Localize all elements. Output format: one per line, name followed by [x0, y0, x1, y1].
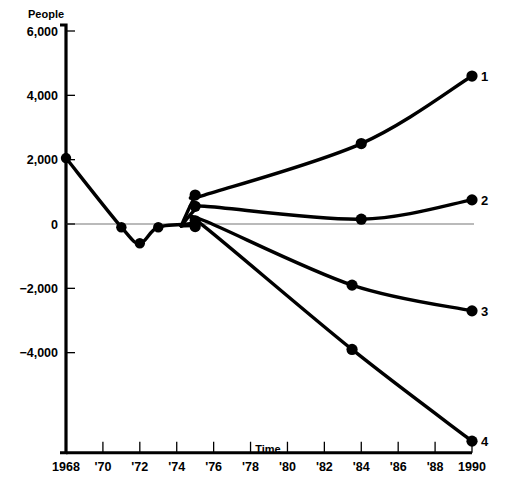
y-tick-label: −2,000: [19, 282, 58, 296]
series-end-label-4: 4: [481, 434, 489, 449]
data-point-marker: [116, 222, 126, 232]
series-end-label-3: 3: [481, 304, 488, 319]
x-tick-label: '72: [131, 460, 148, 474]
y-tick-label: 4,000: [27, 89, 58, 103]
data-point-marker: [356, 138, 367, 149]
people-vs-time-line-chart: 6,0004,0002,0000−2,000−4,000 1968'70'72'…: [0, 0, 506, 479]
x-tick-label: '88: [427, 460, 444, 474]
data-point-marker: [190, 189, 201, 200]
data-point-marker: [346, 344, 357, 355]
y-axis-title: People: [28, 8, 64, 20]
axes-group: [60, 25, 474, 453]
x-axis-tick-labels: 1968'70'72'74'76'78'80'82'84'86'881990: [52, 460, 486, 474]
series-markers-group: [61, 70, 478, 446]
x-tick-label: '82: [316, 460, 333, 474]
data-point-marker: [135, 238, 145, 248]
data-point-marker: [466, 194, 477, 205]
series-end-label-2: 2: [481, 193, 488, 208]
data-point-marker: [356, 214, 367, 225]
series-line-3: [181, 216, 472, 311]
data-point-marker: [153, 222, 163, 232]
x-tick-label: '76: [205, 460, 222, 474]
y-axis-tick-labels: 6,0004,0002,0000−2,000−4,000: [19, 25, 58, 361]
y-tick-label: −4,000: [19, 346, 58, 360]
data-point-marker: [61, 153, 71, 163]
series-lines-group: [66, 76, 472, 441]
data-point-marker: [190, 221, 201, 232]
series-end-label-1: 1: [481, 69, 488, 84]
x-tick-label: '70: [94, 460, 111, 474]
data-point-marker: [466, 305, 477, 316]
x-tick-label: 1990: [458, 460, 486, 474]
data-point-marker: [466, 436, 477, 447]
series-end-labels-group: 1234: [481, 69, 489, 449]
x-axis-title: Time: [255, 443, 280, 455]
x-tick-label: '80: [279, 460, 296, 474]
y-tick-label: 0: [51, 218, 58, 232]
y-tick-label: 6,000: [27, 25, 58, 39]
data-point-marker: [466, 70, 477, 81]
series-line-1: [181, 76, 472, 226]
x-tick-label: '86: [390, 460, 407, 474]
x-tick-label: '74: [168, 460, 185, 474]
series-line-trunk: [66, 158, 195, 243]
y-tick-label: 2,000: [27, 153, 58, 167]
y-axis-line: [60, 25, 66, 453]
x-tick-label: '84: [353, 460, 370, 474]
series-line-2: [181, 200, 472, 226]
x-tick-label: '78: [242, 460, 259, 474]
series-line-4: [181, 217, 472, 441]
x-tick-label: 1968: [52, 460, 80, 474]
chart-canvas: 6,0004,0002,0000−2,000−4,000 1968'70'72'…: [0, 0, 506, 479]
data-point-marker: [190, 201, 201, 212]
data-point-marker: [346, 280, 357, 291]
